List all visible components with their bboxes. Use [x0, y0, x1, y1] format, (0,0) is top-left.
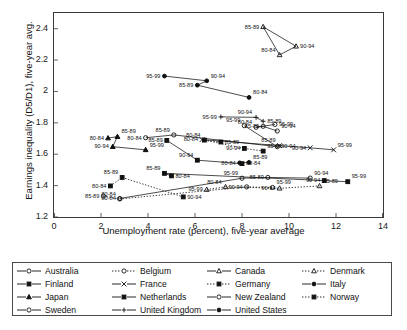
point-label: 95-99 [277, 179, 291, 185]
legend-item-france[interactable]: France [110, 277, 205, 290]
legend-grid: AustraliaBelgiumCanadaDenmarkFinlandFran… [13, 263, 391, 316]
point-label: 85-89 [179, 82, 193, 88]
point-label: 80-84 [246, 160, 260, 166]
chart-page: Earnings inequality (D5/D1), five-year a… [0, 0, 407, 330]
point-label: 85-89 [85, 193, 99, 199]
legend-item-belgium[interactable]: Belgium [110, 264, 205, 277]
point-label: 85-89 [148, 137, 162, 143]
point-label: 90-94 [314, 170, 328, 176]
y-tick-label: 1.4 [26, 180, 48, 190]
point-label: 85-89 [245, 24, 259, 30]
legend-marker-icon [15, 265, 43, 277]
point-label: 85-89 [104, 169, 118, 175]
legend-item-finland[interactable]: Finland [15, 277, 110, 290]
legend-item-denmark[interactable]: Denmark [300, 264, 393, 277]
point-label: 85-89 [121, 128, 135, 134]
legend-item-japan[interactable]: Japan [15, 290, 110, 303]
y-tick-label: 1.6 [26, 148, 48, 158]
point-label: 90-94 [238, 109, 252, 115]
point-label: 85-89 [245, 123, 259, 129]
point-label: 90-94 [187, 194, 201, 200]
point-label: 90-94 [226, 145, 240, 151]
series-new-zealand: 80-8495-9985-8990-94 [101, 170, 328, 201]
point-label: 85-89 [225, 139, 239, 145]
point-label: 85-89 [267, 118, 281, 124]
point-label: 90-94 [261, 185, 275, 191]
point-label: 80-84 [90, 135, 104, 141]
legend-marker-icon [15, 278, 43, 290]
series-united-states: 95-9990-9485-8980-84 [146, 73, 267, 100]
point-label: 85-89 [253, 154, 267, 160]
point-label: 90-94 [292, 145, 306, 151]
legend-item-united-kingdom[interactable]: United Kingdom [110, 303, 205, 316]
legend-label: Sweden [45, 304, 76, 316]
point-label: 90-94 [94, 143, 108, 149]
legend-marker-icon [110, 278, 138, 290]
legend-label: United Kingdom [140, 304, 201, 316]
scatter-chart: Earnings inequality (D5/D1), five-year a… [0, 0, 407, 246]
legend-marker-icon [15, 304, 43, 316]
legend-marker-icon [205, 291, 233, 303]
legend-item-canada[interactable]: Canada [205, 264, 300, 277]
point-label: 80-84 [176, 173, 190, 179]
point-label: 80-84 [101, 195, 115, 201]
point-label: 95-99 [224, 170, 238, 176]
legend-marker-icon [205, 278, 233, 290]
legend-label: Canada [235, 265, 265, 277]
y-tick-label: 1.2 [26, 211, 48, 221]
legend-label: New Zealand [235, 291, 286, 303]
legend-label: Belgium [140, 265, 171, 277]
point-label: 80-84 [261, 47, 275, 53]
legend-marker-icon [205, 304, 233, 316]
point-label: 85-89 [250, 174, 264, 180]
legend-item-united-states[interactable]: United States [205, 303, 300, 316]
point-label: 90-94 [281, 123, 295, 129]
legend-marker-icon [110, 265, 138, 277]
point-label: 85-89 [146, 165, 160, 171]
point-label: 80-84 [92, 183, 106, 189]
plot-canvas: 80-8485-8990-9495-9985-8980-8490-9495-99… [54, 13, 383, 217]
point-label: 90-94 [211, 73, 225, 79]
legend-item-sweden[interactable]: Sweden [15, 303, 110, 316]
legend-marker-icon [205, 265, 233, 277]
plot-area: 80-8485-8990-9495-9985-8980-8490-9495-99… [53, 12, 384, 218]
legend-label: Germany [235, 278, 270, 290]
legend-label: Italy [330, 278, 346, 290]
legend-item-netherlands[interactable]: Netherlands [110, 290, 205, 303]
point-label: 80-84 [186, 132, 200, 138]
legend-label: Japan [45, 291, 68, 303]
y-tick-label: 1.8 [26, 117, 48, 127]
point-label: 90-94 [228, 184, 242, 190]
legend-marker-icon [300, 265, 328, 277]
chart-legend: AustraliaBelgiumCanadaDenmarkFinlandFran… [12, 262, 392, 316]
legend-label: Australia [45, 265, 78, 277]
point-label: 95-99 [338, 142, 352, 148]
legend-label: Denmark [330, 265, 365, 277]
legend-item-norway[interactable]: Norway [300, 290, 393, 303]
legend-label: France [140, 278, 167, 290]
legend-label: United States [235, 304, 287, 316]
legend-marker-icon [300, 278, 328, 290]
legend-marker-icon [300, 291, 328, 303]
point-label: 95-99 [188, 186, 202, 192]
point-label: 80-84 [253, 89, 267, 95]
series-germany: 85-8980-8490-9495-99 [186, 132, 281, 153]
legend-label: Finland [45, 278, 73, 290]
point-label: 90-94 [179, 152, 193, 158]
legend-item-australia[interactable]: Australia [15, 264, 110, 277]
legend-item-italy[interactable]: Italy [300, 277, 393, 290]
point-label: 95-99 [146, 73, 160, 79]
legend-marker-icon [15, 291, 43, 303]
x-axis-label: Unemployment rate (percent), five-year a… [0, 225, 407, 236]
point-label: 95-99 [203, 114, 217, 120]
point-label: 95-99 [352, 173, 366, 179]
legend-marker-icon [110, 304, 138, 316]
legend-item-new-zealand[interactable]: New Zealand [205, 290, 300, 303]
legend-item-germany[interactable]: Germany [205, 277, 300, 290]
legend-label: Norway [330, 291, 359, 303]
series-canada: 85-8980-8490-94 [245, 24, 315, 57]
legend-label: Netherlands [140, 291, 186, 303]
y-tick-label: 2.4 [26, 23, 48, 33]
point-label: 95-99 [267, 143, 281, 149]
point-label: 85-89 [156, 127, 170, 133]
